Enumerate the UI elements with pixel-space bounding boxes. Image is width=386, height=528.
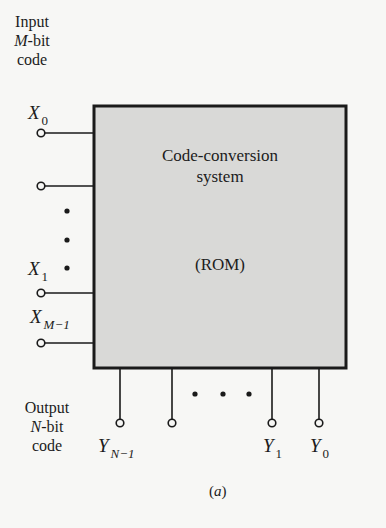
label-y1-symbol: Y (263, 435, 274, 456)
input-label-line1: Input (4, 12, 60, 31)
label-x1-subscript: 1 (42, 269, 49, 284)
caption-close-paren: ) (222, 483, 227, 499)
label-y1-subscript: 1 (276, 446, 283, 461)
label-xm1-symbol: X (30, 306, 42, 327)
rom-box-title-line2: system (94, 166, 346, 187)
label-x0-subscript: 0 (42, 113, 49, 128)
input-label-bit: -bit (28, 32, 50, 49)
input-ellipsis-dots (64, 208, 69, 270)
output-ellipsis-dots (192, 391, 251, 396)
rom-box-subtitle: (ROM) (94, 254, 346, 275)
input-label-line3: code (4, 50, 60, 69)
output-label-bit: -bit (41, 418, 63, 435)
input-terminal-x1 (37, 289, 45, 297)
input-terminal-xm1 (37, 339, 45, 347)
input-label-m: M (14, 32, 27, 49)
caption-letter: a (214, 483, 222, 499)
input-label-line2: M-bit (4, 31, 60, 50)
label-x0: X0 (28, 103, 48, 122)
label-yn1-subscript: N−1 (111, 446, 135, 461)
label-x1-symbol: X (28, 258, 40, 279)
label-x1: X1 (28, 259, 48, 278)
input-group-label: Input M-bit code (4, 12, 60, 69)
label-yn1: YN−1 (98, 436, 135, 455)
output-label-line1: Output (14, 398, 80, 417)
rom-box-title-line1: Code-conversion (94, 145, 346, 166)
input-terminal-x0 (37, 129, 45, 137)
label-xm1: XM−1 (30, 307, 70, 326)
figure-caption: (a) (209, 484, 227, 499)
output-terminal-2 (168, 419, 176, 427)
label-yn1-symbol: Y (98, 435, 109, 456)
output-terminal-y1 (268, 419, 276, 427)
output-label-line3: code (14, 436, 80, 455)
label-y0: Y0 (310, 436, 329, 455)
output-terminal-yn1 (116, 419, 124, 427)
input-terminal-2 (37, 182, 45, 190)
label-y0-symbol: Y (310, 435, 321, 456)
output-label-line2: N-bit (14, 417, 80, 436)
label-y0-subscript: 0 (323, 446, 330, 461)
rom-box-title: Code-conversion system (94, 145, 346, 187)
output-group-label: Output N-bit code (14, 398, 80, 455)
output-terminal-y0 (315, 419, 323, 427)
output-wires (116, 368, 323, 427)
diagram-canvas: Input M-bit code X0 X1 XM−1 Code-convers… (0, 0, 386, 528)
output-label-n: N (31, 418, 42, 435)
label-y1: Y1 (263, 436, 282, 455)
label-x0-symbol: X (28, 102, 40, 123)
label-xm1-subscript: M−1 (44, 317, 70, 332)
